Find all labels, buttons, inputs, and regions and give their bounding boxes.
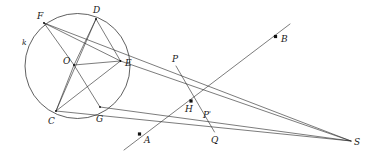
point-marker-e <box>120 60 122 62</box>
point-label-q: Q <box>211 135 219 145</box>
point-label-o: O <box>63 56 71 66</box>
point-label-b: B <box>280 34 288 44</box>
geometry-diagram: FDEOGCPHP'QABS k <box>0 0 368 157</box>
point-label-h: H <box>184 104 193 114</box>
segment-d-c <box>56 19 96 111</box>
point-marker-a <box>138 132 141 135</box>
point-label-c: C <box>48 116 55 126</box>
point-label-f: F <box>36 11 44 21</box>
point-marker-c <box>55 110 57 112</box>
point-label-s: S <box>354 137 360 147</box>
segment-o-e <box>74 61 121 65</box>
geometry-canvas: FDEOGCPHP'QABS k <box>0 0 368 157</box>
point-marker-f <box>43 22 45 24</box>
segments-group <box>44 19 351 150</box>
segment-f-to-s <box>44 23 351 141</box>
segment-g-to-s <box>100 107 351 141</box>
point-marker-h <box>189 99 192 102</box>
point-label-pp: P' <box>202 110 211 121</box>
point-marker-o <box>73 64 75 66</box>
point-marker-b <box>274 35 277 38</box>
point-label-d: D <box>92 5 100 15</box>
segment-p-to-q <box>176 66 215 132</box>
segment-a-b-ray <box>124 24 290 150</box>
segment-o-g <box>74 65 100 107</box>
point-label-e: E <box>124 58 132 68</box>
point-label-a: A <box>143 135 151 145</box>
circle-label-k: k <box>22 38 27 47</box>
point-label-g: G <box>96 114 103 124</box>
point-marker-g <box>99 106 101 108</box>
segment-f-e <box>44 23 121 61</box>
point-marker-d <box>95 18 97 20</box>
point-markers-group <box>43 18 277 135</box>
point-label-p: P <box>171 54 179 64</box>
